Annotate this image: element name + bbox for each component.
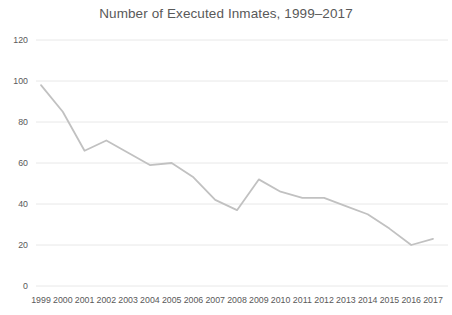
line-chart: Number of Executed Inmates, 1999–2017 02…	[0, 0, 452, 315]
y-axis-tick-label: 100	[13, 76, 28, 86]
x-axis-tick-label: 2001	[75, 295, 95, 305]
x-axis-tick-label: 2003	[118, 295, 138, 305]
x-axis-tick-label: 2009	[249, 295, 269, 305]
chart-plot-area: 0204060801001201999200020012002200320042…	[0, 0, 452, 315]
x-axis-tick-label: 2007	[205, 295, 225, 305]
y-axis-tick-label: 20	[18, 240, 28, 250]
y-axis-tick-label: 120	[13, 35, 28, 45]
x-axis-tick-label: 2000	[53, 295, 73, 305]
y-axis-tick-label: 0	[23, 281, 28, 291]
x-axis-tick-label: 2010	[271, 295, 291, 305]
x-axis-tick-label: 2011	[293, 295, 312, 305]
x-axis-tick-label: 1999	[31, 295, 51, 305]
x-axis-tick-label: 2015	[380, 295, 400, 305]
data-series-line	[41, 85, 433, 245]
x-axis-tick-label: 2005	[162, 295, 182, 305]
x-axis-tick-label: 2017	[423, 295, 443, 305]
x-axis-tick-label: 2006	[184, 295, 204, 305]
x-axis-tick-label: 2008	[227, 295, 247, 305]
y-axis-tick-label: 40	[18, 199, 28, 209]
x-axis-tick-label: 2002	[97, 295, 117, 305]
y-axis-tick-label: 80	[18, 117, 28, 127]
x-axis-tick-label: 2016	[401, 295, 421, 305]
y-axis-tick-label: 60	[18, 158, 28, 168]
x-axis-tick-label: 2014	[358, 295, 378, 305]
x-axis-tick-label: 2004	[140, 295, 160, 305]
x-axis-tick-label: 2013	[336, 295, 356, 305]
x-axis-tick-label: 2012	[314, 295, 334, 305]
